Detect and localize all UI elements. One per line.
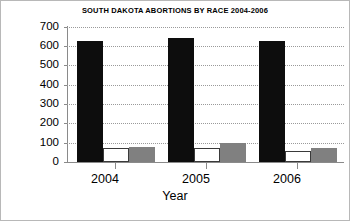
bar-group-2004 <box>77 26 154 162</box>
bar-2006-series-2 <box>285 151 311 162</box>
x-tick-2005 <box>206 162 207 169</box>
bar-2005-series-2 <box>194 148 220 162</box>
x-tick-2004 <box>115 162 116 169</box>
bar-2006-series-1 <box>259 41 285 162</box>
chart-title: SOUTH DAKOTA ABORTIONS BY RACE 2004-2006 <box>1 6 349 15</box>
bar-2006-series-3 <box>311 148 337 162</box>
y-tick-label-500: 500 <box>40 59 59 71</box>
y-tick-label-300: 300 <box>40 98 59 110</box>
bar-chart-figure: SOUTH DAKOTA ABORTIONS BY RACE 2004-2006… <box>0 0 350 221</box>
y-tick-label-200: 200 <box>40 118 59 130</box>
bar-2005-series-1 <box>168 38 194 162</box>
bar-group-2005 <box>168 26 245 162</box>
plot-area <box>67 26 344 162</box>
bar-2004-series-3 <box>129 147 155 162</box>
y-tick-label-600: 600 <box>40 40 59 52</box>
x-tick-label-2005: 2005 <box>182 172 210 186</box>
y-tick-label-700: 700 <box>40 21 59 33</box>
x-tick-2006 <box>297 162 298 169</box>
y-tick-label-100: 100 <box>40 137 59 149</box>
bar-2005-series-3 <box>220 143 246 162</box>
bar-group-2006 <box>259 26 336 162</box>
y-tick-label-0: 0 <box>53 156 59 168</box>
y-axis-tick-labels: 700 600 500 400 300 200 100 0 <box>1 26 63 162</box>
x-tick-label-2006: 2006 <box>273 172 301 186</box>
y-tick-label-400: 400 <box>40 79 59 91</box>
bar-2004-series-1 <box>77 41 103 162</box>
bar-2004-series-2 <box>103 148 129 162</box>
x-axis-title: Year <box>1 189 349 203</box>
x-tick-label-2004: 2004 <box>91 172 119 186</box>
